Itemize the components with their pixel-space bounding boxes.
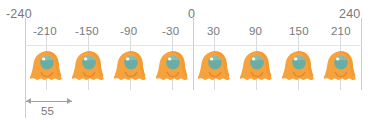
ghost-character-icon — [29, 50, 65, 84]
axis-label-max: 240 — [339, 8, 360, 21]
baseline-grid-line — [25, 45, 362, 46]
tick-label-6: 90 — [249, 26, 262, 38]
tick-label-2: -150 — [75, 26, 99, 38]
tick-label-4: -30 — [162, 26, 179, 38]
diagram-canvas: -240 0 240 -210 -150 -90 -30 30 90 150 2… — [0, 0, 387, 128]
tick-label-1: -210 — [33, 26, 57, 38]
ghost-character-icon — [71, 50, 107, 84]
guide-line-center — [193, 18, 194, 90]
axis-label-min: -240 — [6, 8, 32, 21]
axis-label-zero: 0 — [188, 8, 195, 21]
tick-label-3: -90 — [120, 26, 137, 38]
guide-line-right-boundary — [361, 18, 362, 90]
ghost-character-icon — [113, 50, 149, 84]
dimension-arrow-right — [67, 98, 72, 104]
ghost-character-icon — [197, 50, 233, 84]
dimension-line — [26, 101, 72, 102]
dimension-arrow-left — [26, 98, 31, 104]
dimension-label: 55 — [41, 106, 54, 118]
tick-label-7: 150 — [289, 26, 309, 38]
ghost-character-icon — [281, 50, 317, 84]
ghost-character-icon — [323, 50, 359, 84]
tick-label-8: 210 — [331, 26, 351, 38]
ghost-character-icon — [155, 50, 191, 84]
tick-label-5: 30 — [207, 26, 220, 38]
ghost-character-icon — [239, 50, 275, 84]
